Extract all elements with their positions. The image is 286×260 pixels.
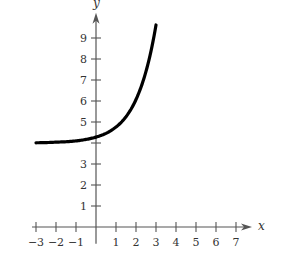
x-tick-label: 7 (233, 236, 240, 249)
x-tick-label: 5 (193, 236, 200, 249)
chart-figure: −3−2−1123456712356789 x y (0, 0, 286, 260)
y-tick-label: 2 (80, 179, 87, 192)
x-tick-label: −3 (28, 236, 44, 249)
y-tick-label: 5 (80, 116, 87, 129)
x-axis-label: x (258, 219, 265, 233)
y-tick-label: 9 (80, 32, 87, 45)
y-axis-label: y (92, 0, 100, 10)
x-tick-label: 1 (113, 236, 120, 249)
x-tick-label: 3 (153, 236, 160, 249)
y-tick-label: 8 (80, 53, 87, 66)
y-tick-label: 6 (80, 95, 87, 108)
x-tick-label: −1 (68, 236, 84, 249)
x-tick-label: −2 (48, 236, 64, 249)
y-tick-label: 7 (80, 74, 87, 87)
tick-marks (36, 38, 236, 232)
chart-svg: −3−2−1123456712356789 x y (0, 0, 286, 260)
y-tick-label: 3 (80, 158, 87, 171)
axes (32, 13, 252, 244)
x-tick-label: 2 (133, 236, 140, 249)
x-tick-label: 4 (173, 236, 180, 249)
x-tick-label: 6 (213, 236, 220, 249)
y-tick-label: 1 (80, 200, 87, 213)
